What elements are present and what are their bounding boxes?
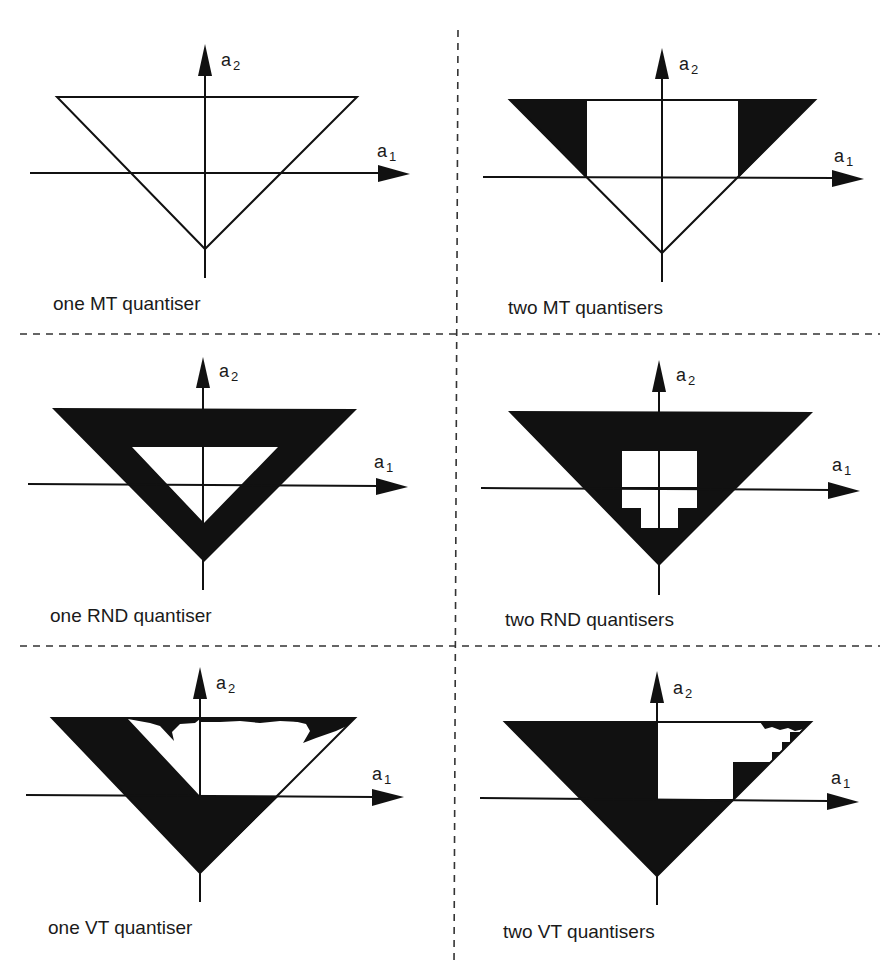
quantiser-comparison-figure: a2 a1 one MT quantiser a2 a1 two MT quan… bbox=[0, 0, 895, 979]
a1-label: a1 bbox=[377, 141, 396, 164]
a1-arrowhead-icon bbox=[378, 165, 410, 182]
axes bbox=[30, 72, 380, 278]
a1-label: a1 bbox=[831, 768, 850, 791]
panel-caption: two RND quantisers bbox=[505, 609, 674, 630]
a2-label: a2 bbox=[219, 361, 238, 384]
a2-label: a2 bbox=[216, 673, 235, 696]
panel-caption: two MT quantisers bbox=[508, 297, 663, 318]
panel-one-vt: a2 a1 one VT quantiser bbox=[26, 667, 404, 938]
a1-label: a1 bbox=[374, 452, 393, 475]
panel-two-vt: a2 a1 two VT quantisers bbox=[480, 671, 859, 942]
a1-arrowhead-icon bbox=[372, 789, 404, 806]
a2-arrowhead-icon bbox=[655, 48, 669, 79]
a1-label: a1 bbox=[372, 764, 391, 787]
a2-label: a2 bbox=[679, 54, 698, 77]
panel-caption: two VT quantisers bbox=[503, 921, 655, 942]
a2-arrowhead-icon bbox=[196, 357, 210, 388]
a2-arrowhead-icon bbox=[652, 360, 666, 392]
a1-arrowhead-icon bbox=[827, 793, 859, 810]
a1-arrowhead-icon bbox=[828, 482, 860, 499]
a2-label: a2 bbox=[676, 365, 695, 388]
panel-caption: one VT quantiser bbox=[48, 917, 193, 938]
vertical-divider bbox=[454, 30, 458, 966]
a1-arrowhead-icon bbox=[832, 170, 864, 187]
a1-arrowhead-icon bbox=[376, 478, 408, 495]
a2-label: a2 bbox=[221, 50, 240, 73]
panel-two-rnd: a2 a1 two RND quantisers bbox=[481, 360, 860, 630]
panel-two-mt: a2 a1 two MT quantisers bbox=[483, 48, 864, 318]
a2-arrowhead-icon bbox=[193, 667, 207, 699]
a2-arrowhead-icon bbox=[198, 44, 212, 76]
panel-one-rnd: a2 a1 one RND quantiser bbox=[28, 357, 408, 626]
a1-label: a1 bbox=[834, 146, 853, 169]
panel-one-mt: a2 a1 one MT quantiser bbox=[30, 44, 410, 314]
panel-caption: one MT quantiser bbox=[53, 293, 201, 314]
panel-caption: one RND quantiser bbox=[50, 605, 212, 626]
a2-label: a2 bbox=[673, 678, 692, 701]
a1-label: a1 bbox=[832, 455, 851, 478]
a2-arrowhead-icon bbox=[650, 671, 664, 703]
